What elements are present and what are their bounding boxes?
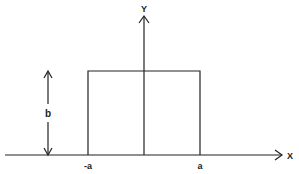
right-edge-label: a bbox=[197, 161, 203, 171]
height-label: b bbox=[45, 108, 51, 119]
pulse-diagram: Y X b -a a bbox=[0, 0, 299, 174]
diagram: Y X b -a a bbox=[0, 0, 299, 174]
y-axis-label: Y bbox=[141, 4, 147, 14]
x-axis-label: X bbox=[287, 151, 293, 161]
left-edge-label: -a bbox=[84, 161, 93, 171]
